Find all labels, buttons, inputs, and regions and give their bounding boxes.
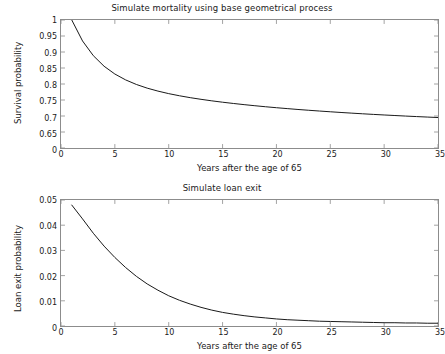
plot-svg-top — [61, 20, 438, 148]
xaxis-tick-label: 35 — [435, 328, 445, 337]
yaxis-tick-label: 0.75 — [39, 97, 57, 106]
yaxis-label-bottom: Loan exit probability — [13, 225, 23, 312]
panel-loan-exit-probability: Simulate loan exit 0510152025303500.010.… — [0, 180, 444, 354]
yaxis-tick-label: 0.85 — [39, 64, 57, 73]
xaxis-tick-label: 15 — [218, 328, 228, 337]
panel-survival-probability: Simulate mortality using base geometrica… — [0, 0, 444, 180]
yaxis-tick-label: 0.8 — [44, 81, 57, 90]
yaxis-tick-label: 0.95 — [39, 32, 57, 41]
data-series-line — [72, 205, 438, 323]
xaxis-label-top: Years after the age of 65 — [60, 163, 439, 173]
yaxis-tick-label: 0.01 — [39, 298, 57, 307]
xaxis-tick-label: 25 — [327, 150, 337, 159]
yaxis-tick-label: 0.03 — [39, 247, 57, 256]
xaxis-tick-label: 15 — [218, 150, 228, 159]
yaxis-tick-label: 0 — [52, 146, 57, 155]
data-series-line — [72, 20, 438, 118]
xaxis-tick-label: 20 — [272, 328, 282, 337]
yaxis-tick-label: 0.02 — [39, 272, 57, 281]
yaxis-tick-label: 0.7 — [44, 113, 57, 122]
yaxis-tick-label: 0.04 — [39, 221, 57, 230]
chart-title-bottom: Simulate loan exit — [0, 183, 444, 193]
xaxis-tick-label: 20 — [272, 150, 282, 159]
chart-title-top: Simulate mortality using base geometrica… — [0, 3, 444, 13]
plot-area-top: 0510152025303500.650.70.750.80.850.90.95… — [60, 19, 439, 149]
xaxis-tick-label: 30 — [381, 150, 391, 159]
xaxis-label-bottom: Years after the age of 65 — [60, 341, 439, 351]
plot-area-bottom: 0510152025303500.010.020.030.040.05 — [60, 199, 439, 327]
xaxis-tick-label: 10 — [164, 328, 174, 337]
yaxis-tick-label: 0.65 — [39, 129, 57, 138]
xaxis-tick-label: 5 — [113, 150, 118, 159]
xaxis-tick-label: 30 — [381, 328, 391, 337]
yaxis-tick-label: 0 — [52, 324, 57, 333]
yaxis-tick-label: 1 — [52, 16, 57, 25]
yaxis-label-top: Survival probability — [13, 42, 23, 124]
xaxis-tick-label: 0 — [58, 328, 63, 337]
xaxis-tick-label: 35 — [435, 150, 445, 159]
yaxis-tick-label: 0.05 — [39, 196, 57, 205]
xaxis-tick-label: 25 — [327, 328, 337, 337]
plot-svg-bottom — [61, 200, 438, 326]
xaxis-tick-label: 5 — [113, 328, 118, 337]
xaxis-tick-label: 10 — [164, 150, 174, 159]
xaxis-tick-label: 0 — [58, 150, 63, 159]
yaxis-tick-label: 0.9 — [44, 48, 57, 57]
